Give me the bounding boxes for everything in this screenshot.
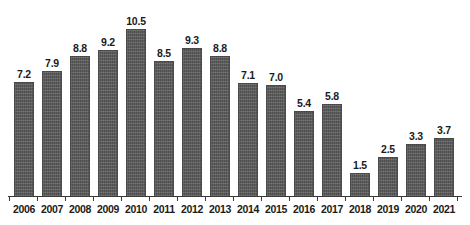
bar-group: 5.4 [290, 0, 318, 197]
x-axis-tick-label: 2011 [150, 203, 178, 215]
x-axis-tick-label: 2009 [94, 203, 122, 215]
bar-group: 7.2 [10, 0, 38, 197]
x-axis-tick [37, 197, 38, 201]
x-axis-tick-label: 2008 [66, 203, 94, 215]
x-axis-tick-label: 2012 [178, 203, 206, 215]
x-axis-tick [149, 197, 150, 201]
bar-value-label: 7.1 [234, 69, 262, 81]
bar-group: 1.5 [346, 0, 374, 197]
bar-value-label: 7.0 [262, 71, 290, 83]
bar-group: 8.8 [66, 0, 94, 197]
bar-value-label: 10.5 [122, 15, 150, 27]
bar-group: 9.2 [94, 0, 122, 197]
bar [210, 56, 230, 197]
bar-value-label: 5.4 [290, 97, 318, 109]
x-axis-tick-label: 2017 [318, 203, 346, 215]
bar [42, 71, 62, 197]
bar [154, 61, 174, 197]
bar-value-label: 8.8 [206, 42, 234, 54]
bar-group: 3.3 [402, 0, 430, 197]
x-axis-tick [233, 197, 234, 201]
x-axis-tick [177, 197, 178, 201]
x-axis-tick [65, 197, 66, 201]
bar-group: 5.8 [318, 0, 346, 197]
bar-group: 8.5 [150, 0, 178, 197]
x-axis-tick-label: 2013 [206, 203, 234, 215]
x-axis-tick [9, 197, 10, 201]
x-axis-tick-label: 2014 [234, 203, 262, 215]
bar [70, 56, 90, 197]
bar [14, 82, 34, 197]
bar [294, 111, 314, 197]
bar-value-label: 7.9 [38, 57, 66, 69]
bar [98, 50, 118, 197]
bar-group: 7.9 [38, 0, 66, 197]
x-axis-tick-label: 2015 [262, 203, 290, 215]
x-axis-tick [93, 197, 94, 201]
bar [238, 83, 258, 197]
x-axis-tick-label: 2021 [430, 203, 458, 215]
x-axis-tick [401, 197, 402, 201]
bar [350, 173, 370, 197]
bar-group: 8.8 [206, 0, 234, 197]
x-axis-tick [317, 197, 318, 201]
x-axis-tick-label: 2019 [374, 203, 402, 215]
bar-value-label: 2.5 [374, 143, 402, 155]
bar [182, 48, 202, 197]
x-axis-tick [345, 197, 346, 201]
bar-value-label: 8.5 [150, 47, 178, 59]
bar-value-label: 8.8 [66, 42, 94, 54]
x-axis-tick [429, 197, 430, 201]
x-axis-tick-label: 2010 [122, 203, 150, 215]
x-axis-tick [373, 197, 374, 201]
x-axis-tick [205, 197, 206, 201]
x-axis-tick-label: 2006 [10, 203, 38, 215]
bar-chart: 7.27.98.89.210.58.59.38.87.17.05.45.81.5… [0, 0, 470, 225]
bar-value-label: 3.7 [430, 124, 458, 136]
bar-value-label: 9.2 [94, 36, 122, 48]
bar-value-label: 7.2 [10, 68, 38, 80]
x-axis-tick [121, 197, 122, 201]
x-axis-label-row: 2006200720082009201020112012201320142015… [0, 203, 470, 223]
bar [266, 85, 286, 197]
bar-value-label: 3.3 [402, 130, 430, 142]
x-axis-tick [289, 197, 290, 201]
bar [378, 157, 398, 197]
bar [126, 29, 146, 197]
x-axis-line [8, 196, 462, 197]
bar-value-label: 1.5 [346, 159, 374, 171]
bar-group: 3.7 [430, 0, 458, 197]
bar-value-label: 5.8 [318, 90, 346, 102]
bar-value-label: 9.3 [178, 34, 206, 46]
bar-group: 10.5 [122, 0, 150, 197]
plot-area: 7.27.98.89.210.58.59.38.87.17.05.45.81.5… [0, 0, 470, 197]
x-axis-tick [457, 197, 458, 201]
x-axis-tick-label: 2020 [402, 203, 430, 215]
bar-group: 7.0 [262, 0, 290, 197]
bar [434, 138, 454, 197]
bar-group: 9.3 [178, 0, 206, 197]
x-axis-tick [261, 197, 262, 201]
x-axis-tick-label: 2007 [38, 203, 66, 215]
bar [322, 104, 342, 197]
bar-group: 2.5 [374, 0, 402, 197]
bar-group: 7.1 [234, 0, 262, 197]
x-axis-tick-label: 2016 [290, 203, 318, 215]
x-axis-tick-label: 2018 [346, 203, 374, 215]
bar [406, 144, 426, 197]
